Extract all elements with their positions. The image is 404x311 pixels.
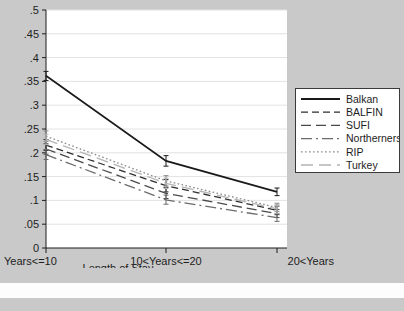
x-axis-category-labels: Years<=1010<Years<=2020<Years [4, 255, 334, 267]
x-category-label: 20<Years [288, 255, 335, 267]
y-tick-label: .1 [30, 194, 39, 206]
bottom-white-band [0, 283, 404, 298]
y-tick-label: .3 [30, 99, 39, 111]
legend-label-rip[interactable]: RIP [346, 146, 364, 158]
x-category-label: Years<=10 [4, 255, 57, 267]
y-tick-label: 0 [33, 242, 39, 254]
legend-label-balkan[interactable]: Balkan [346, 93, 378, 105]
y-axis-ticks [42, 10, 46, 248]
legend-label-turkey[interactable]: Turkey [346, 159, 378, 171]
x-axis-ticks [46, 248, 277, 253]
legend-box: BalkanBALFINSUFINorthernersRIPTurkey [295, 88, 400, 173]
legend-label-balfin[interactable]: BALFIN [346, 106, 383, 118]
y-tick-label: .15 [24, 171, 39, 183]
legend-content: BalkanBALFINSUFINorthernersRIPTurkey [296, 89, 399, 172]
y-tick-label: .25 [24, 123, 39, 135]
figure-container: 0.05.1.15.2.25.3.35.4.45.5 Years<=1010<Y… [0, 0, 404, 311]
y-tick-label: .2 [30, 147, 39, 159]
y-tick-label: .5 [30, 4, 39, 16]
y-tick-label: .05 [24, 218, 39, 230]
y-axis-tick-labels: 0.05.1.15.2.25.3.35.4.45.5 [24, 4, 39, 254]
legend-label-northerners[interactable]: Northerners [346, 132, 399, 144]
y-tick-label: .45 [24, 28, 39, 40]
legend-label-sufi[interactable]: SUFI [346, 119, 370, 131]
y-tick-label: .4 [30, 52, 39, 64]
y-tick-label: .35 [24, 75, 39, 87]
x-axis-title: Length of Stay [83, 262, 154, 268]
